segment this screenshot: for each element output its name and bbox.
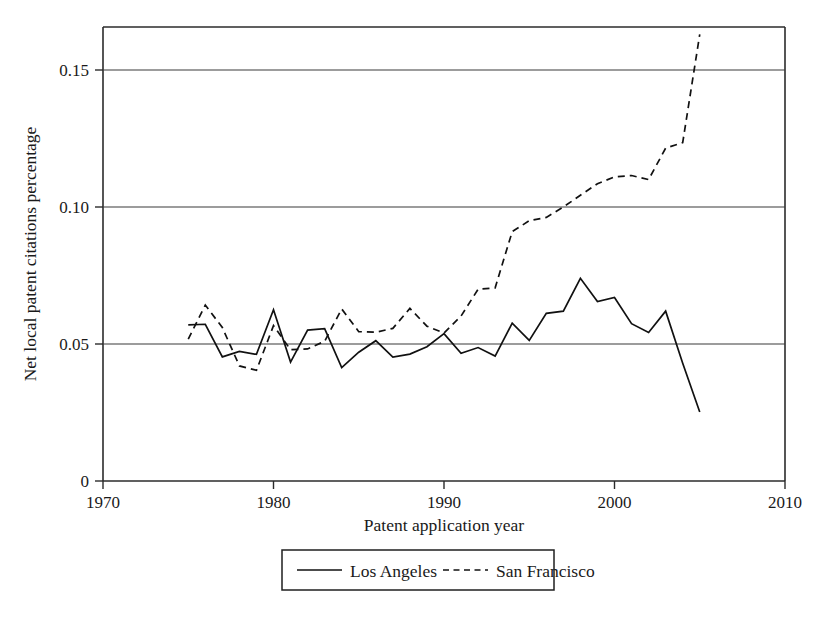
y-tick-label-0: 0 xyxy=(81,472,90,491)
series-line-san-francisco xyxy=(188,34,700,370)
y-tick-labels: 0 0.05 0.10 0.15 xyxy=(59,61,89,491)
x-axis-title: Patent application year xyxy=(364,515,525,535)
x-tick-label-1990: 1990 xyxy=(427,493,461,512)
line-chart-svg: 0 0.05 0.10 0.15 1970 1980 1990 2000 201… xyxy=(0,0,832,619)
y-tick-label-0.15: 0.15 xyxy=(59,61,89,80)
x-tick-labels: 1970 1980 1990 2000 2010 xyxy=(86,493,802,512)
y-gridlines xyxy=(103,70,785,344)
x-tick-marks xyxy=(103,481,785,489)
chart-figure: 0 0.05 0.10 0.15 1970 1980 1990 2000 201… xyxy=(0,0,832,619)
y-tick-marks xyxy=(95,70,103,481)
chart-legend: Los Angeles San Francisco xyxy=(282,550,595,590)
y-tick-label-0.10: 0.10 xyxy=(59,198,89,217)
legend-label-los-angeles: Los Angeles xyxy=(350,561,437,581)
x-tick-label-2010: 2010 xyxy=(768,493,802,512)
series-line-los-angeles xyxy=(188,278,700,412)
x-tick-label-2000: 2000 xyxy=(598,493,632,512)
x-tick-label-1970: 1970 xyxy=(86,493,120,512)
y-tick-label-0.05: 0.05 xyxy=(59,335,89,354)
x-tick-label-1980: 1980 xyxy=(257,493,291,512)
legend-label-san-francisco: San Francisco xyxy=(496,561,595,581)
y-axis-title: Net local patent citations percentage xyxy=(20,126,40,381)
